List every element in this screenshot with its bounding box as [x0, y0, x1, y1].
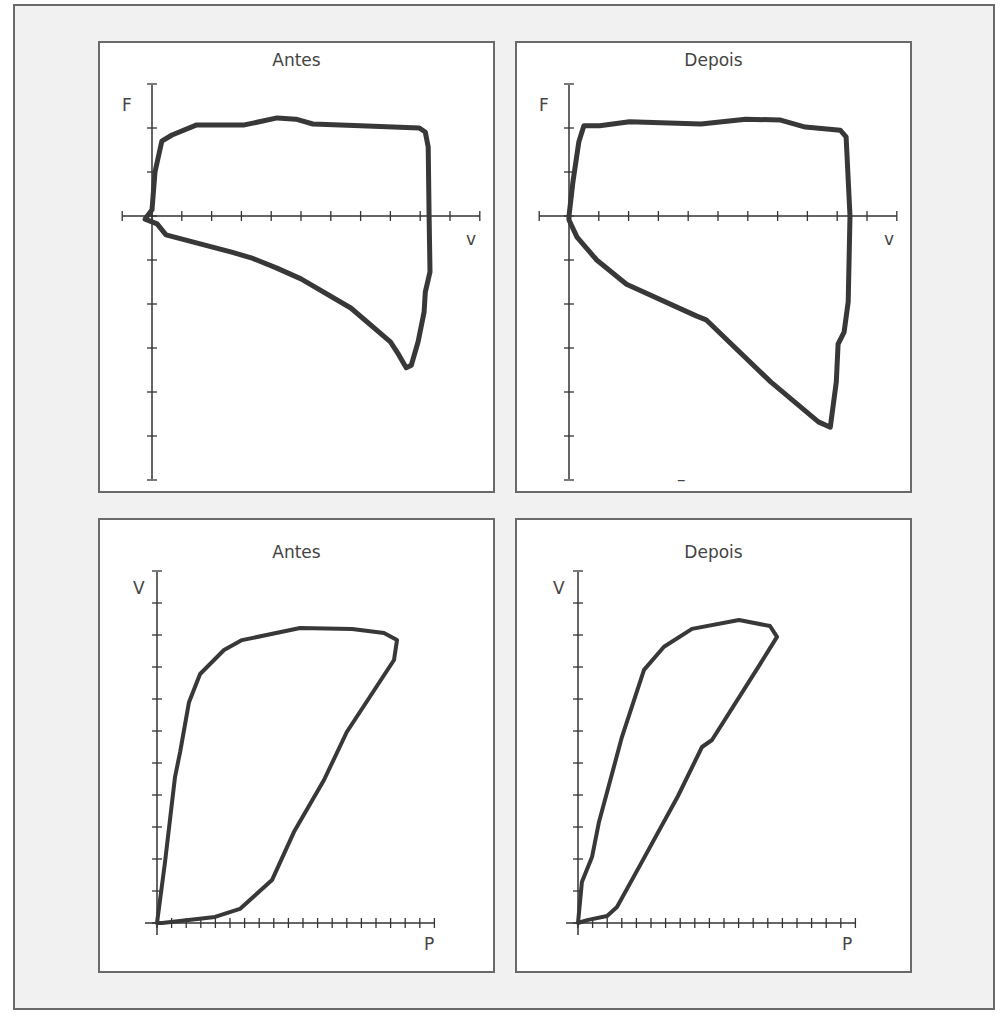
panel-vp-depois: Depois V P [515, 518, 912, 973]
y-axis-label: V [553, 578, 565, 598]
y-axis-label: F [122, 95, 132, 115]
loop-curve [569, 119, 850, 427]
y-axis-label: F [539, 95, 549, 115]
loop-curve [578, 620, 777, 923]
vp-depois-plot: V P [517, 520, 914, 975]
loop-curve [157, 628, 397, 923]
panel-fv-depois: Depois F v – [515, 41, 912, 493]
x-axis-label: v [466, 229, 476, 249]
loop-curve [145, 118, 430, 368]
panel-fv-antes: Antes F v [98, 41, 495, 493]
stray-mark-annotation: – [677, 469, 686, 489]
panel-vp-antes: Antes V P [98, 518, 495, 973]
fv-antes-plot: F v [100, 43, 497, 495]
x-axis-label: P [424, 934, 434, 954]
y-axis-label: V [133, 578, 145, 598]
x-axis-label: P [842, 934, 852, 954]
fv-depois-plot: F v – [517, 43, 914, 495]
x-axis-label: v [884, 229, 894, 249]
vp-antes-plot: V P [100, 520, 497, 975]
